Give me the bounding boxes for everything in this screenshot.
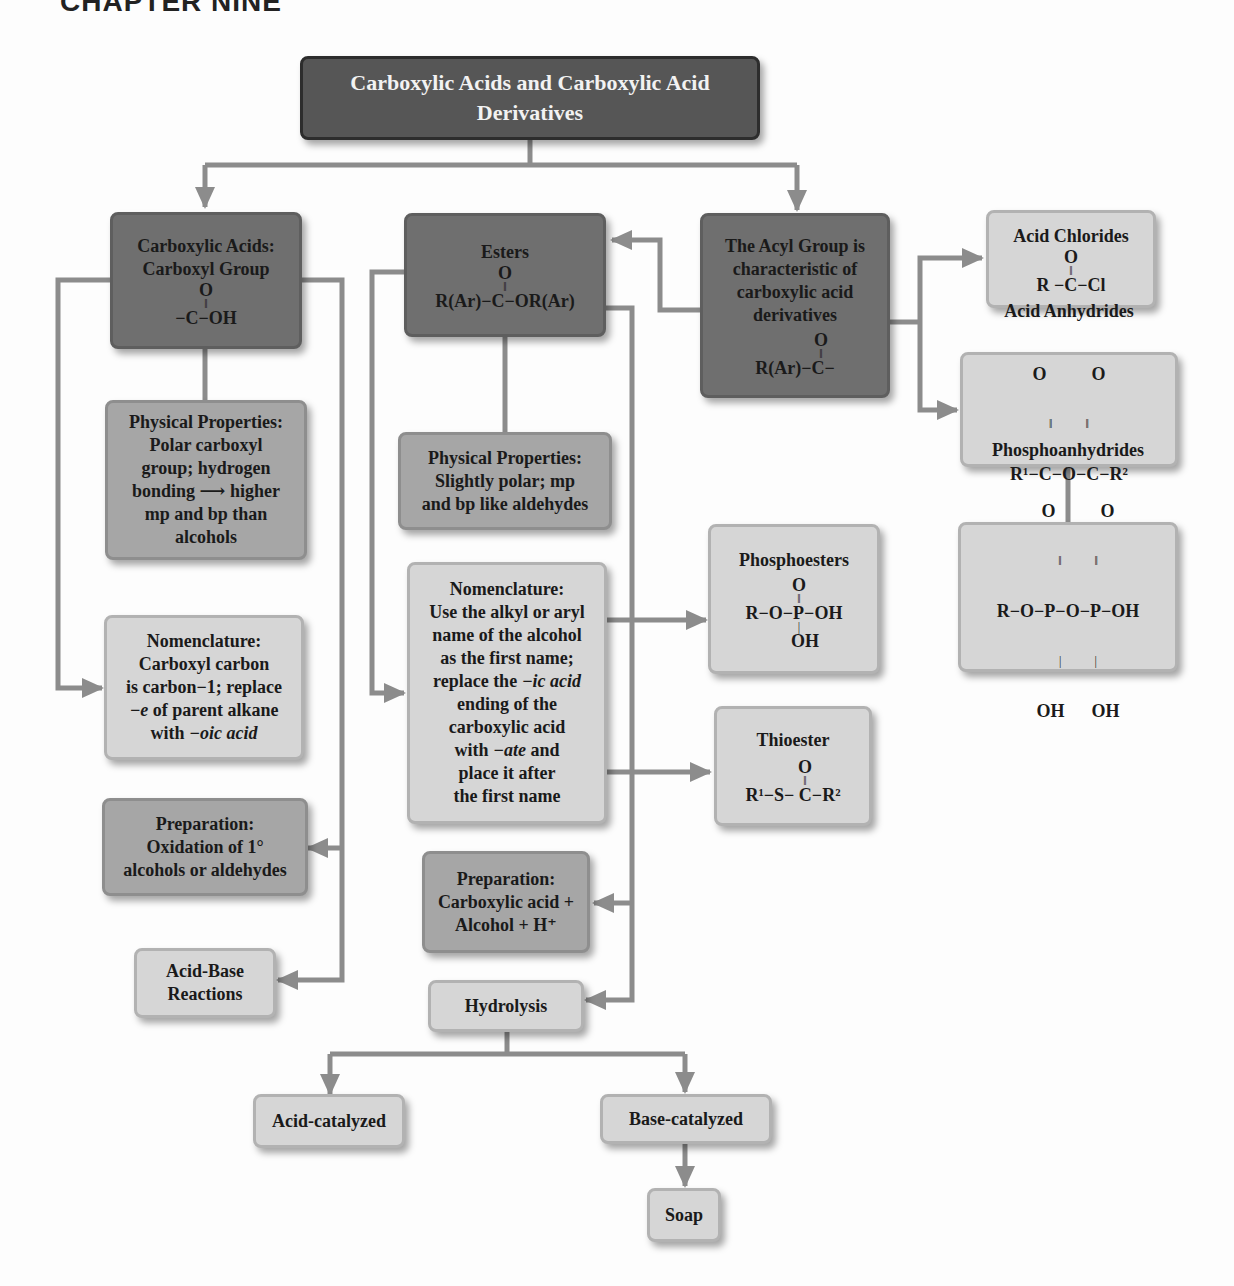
phosphoesters-heading: Phosphoesters: [739, 549, 849, 572]
thioester-box: Thioester O ‖ R¹−S− C−R²: [714, 706, 872, 826]
acyl-group-box: The Acyl Group is characteristic of carb…: [700, 213, 890, 398]
text-line: Nomenclature:: [450, 578, 565, 601]
text-fragment: and: [526, 740, 560, 760]
text-line: carboxylic acid: [449, 716, 565, 739]
text-line: Preparation:: [156, 813, 255, 836]
text-line: Physical Properties:: [129, 411, 283, 434]
text-line: alcohols: [175, 526, 237, 549]
formula-main: R−O−P−O−P−OH: [997, 602, 1139, 620]
acid-nomenclature-box: Nomenclature: Carboxyl carbon is carbon−…: [104, 615, 304, 760]
formula-oxygen: O: [746, 576, 843, 594]
acid-base-reactions-box: Acid-Base Reactions: [134, 948, 276, 1018]
text-line: place it after: [459, 762, 556, 785]
formula-double-bond: ‖: [1036, 266, 1105, 276]
italic-suffix: −oic acid: [189, 723, 257, 743]
text-line: Acid-Base: [166, 960, 244, 983]
acid-chlorides-box: Acid Chlorides O ‖ R −C−Cl: [986, 210, 1156, 308]
text-line: Oxidation of 1°: [146, 836, 263, 859]
text-fragment: with: [151, 723, 190, 743]
text-fragment: of parent alkane: [148, 700, 278, 720]
formula-double-bonds: ‖ ‖: [997, 556, 1139, 566]
text-line: with −ate and: [455, 739, 560, 762]
carboxylic-acids-box: Carboxylic Acids: Carboxyl Group O ‖ −C−…: [110, 212, 302, 349]
acid-anhydrides-heading: Acid Anhydrides: [1004, 300, 1134, 323]
formula-double-bond: ‖: [435, 282, 574, 292]
ester-preparation-box: Preparation: Carboxylic acid + Alcohol +…: [422, 851, 590, 953]
phosphoanhydrides-heading: Phosphoanhydrides: [992, 439, 1144, 462]
text-line: Use the alkyl or aryl: [429, 601, 585, 624]
thioester-formula: O ‖ R¹−S− C−R²: [745, 758, 840, 804]
phosphoanhydrides-box: Phosphoanhydrides O O ‖ ‖ R−O−P−O−P−OH |…: [958, 522, 1178, 672]
esters-heading: Esters: [481, 241, 529, 264]
text-line: mp and bp than: [145, 503, 268, 526]
text-line: Carboxylic acid +: [438, 891, 574, 914]
base-catalyzed-box: Base-catalyzed: [600, 1094, 772, 1144]
formula-double-bonds: ‖ ‖: [1010, 419, 1128, 429]
text-line: name of the alcohol: [432, 624, 581, 647]
text-line: Polar carboxyl: [149, 434, 262, 457]
text-line: and bp like aldehydes: [422, 493, 589, 516]
acid-chloride-formula: O ‖ R −C−Cl: [1036, 248, 1105, 294]
acyl-line-4: derivatives: [753, 304, 837, 327]
text-line: ending of the: [457, 693, 557, 716]
acid-catalyzed-label: Acid-catalyzed: [272, 1110, 386, 1133]
text-line: alcohols or aldehydes: [123, 859, 287, 882]
text-line: group; hydrogen: [142, 457, 271, 480]
formula-main: −C−OH: [175, 309, 237, 327]
formula-oxygen: O: [755, 331, 835, 349]
ester-physical-properties-box: Physical Properties: Slightly polar; mp …: [398, 432, 612, 530]
text-line: the first name: [454, 785, 561, 808]
formula-double-bond: ‖: [755, 349, 835, 359]
phosphoesters-box: Phosphoesters O ‖ R−O−P−OH | OH: [708, 524, 880, 674]
acid-chlorides-heading: Acid Chlorides: [1013, 225, 1129, 248]
soap-label: Soap: [665, 1204, 703, 1227]
formula-main: R(Ar)−C−OR(Ar): [435, 292, 574, 310]
thioester-heading: Thioester: [757, 729, 830, 752]
soap-box: Soap: [647, 1188, 721, 1242]
text-line: Slightly polar; mp: [435, 470, 575, 493]
text-line: Alcohol + H⁺: [455, 914, 557, 937]
acyl-formula: O ‖ R(Ar)−C−: [755, 331, 835, 377]
phosphoester-formula: O ‖ R−O−P−OH | OH: [746, 576, 843, 650]
formula-single-bond: |: [746, 622, 843, 632]
phosphoanhydride-formula: O O ‖ ‖ R−O−P−O−P−OH | | OH OH: [997, 466, 1139, 756]
ester-nomenclature-box: Nomenclature: Use the alkyl or aryl name…: [407, 562, 607, 824]
formula-hydroxyls: OH OH: [997, 702, 1139, 720]
text-line: Nomenclature:: [147, 630, 262, 653]
formula-main: R(Ar)−C−: [755, 359, 835, 377]
formula-oxygen: O: [435, 264, 574, 282]
acyl-line-2: characteristic of: [733, 258, 857, 281]
ester-formula: O ‖ R(Ar)−C−OR(Ar): [435, 264, 574, 310]
acid-preparation-box: Preparation: Oxidation of 1° alcohols or…: [102, 798, 308, 896]
formula-oxygens: O O: [1010, 365, 1128, 383]
carboxylic-acids-heading-1: Carboxylic Acids:: [137, 235, 275, 258]
italic-suffix: −ate: [493, 740, 526, 760]
formula-oxygen: O: [745, 758, 840, 776]
text-line: with −oic acid: [151, 722, 258, 745]
carboxylic-acids-heading-2: Carboxyl Group: [142, 258, 269, 281]
formula-main: R−O−P−OH: [746, 604, 843, 622]
formula-oxygen: O: [175, 281, 237, 299]
text-line: −e of parent alkane: [129, 699, 278, 722]
text-fragment: with: [455, 740, 494, 760]
formula-main: R −C−Cl: [1036, 276, 1105, 294]
title-box: Carboxylic Acids and Carboxylic Acid Der…: [300, 56, 760, 140]
esters-box: Esters O ‖ R(Ar)−C−OR(Ar): [404, 213, 606, 337]
formula-double-bond: ‖: [746, 594, 843, 604]
italic-suffix: −e: [129, 700, 148, 720]
text-fragment: replace the: [433, 671, 522, 691]
hydrolysis-label: Hydrolysis: [465, 995, 548, 1018]
carboxyl-formula: O ‖ −C−OH: [175, 281, 237, 327]
text-line: replace the −ic acid: [433, 670, 581, 693]
formula-double-bond: ‖: [745, 776, 840, 786]
formula-oxygen: O: [1036, 248, 1105, 266]
base-catalyzed-label: Base-catalyzed: [629, 1108, 743, 1131]
hydrolysis-box: Hydrolysis: [428, 980, 584, 1032]
acyl-line-3: carboxylic acid: [737, 281, 853, 304]
text-line: Carboxyl carbon: [139, 653, 270, 676]
formula-main: R¹−S− C−R²: [745, 786, 840, 804]
formula-oxygens: O O: [997, 502, 1139, 520]
title-text: Carboxylic Acids and Carboxylic Acid Der…: [303, 68, 757, 128]
text-line: is carbon−1; replace: [126, 676, 282, 699]
text-line: Physical Properties:: [428, 447, 582, 470]
